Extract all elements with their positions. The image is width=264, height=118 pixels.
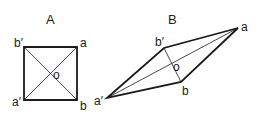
vertex-label-a: a [80, 36, 87, 50]
figure-a-title: A [46, 12, 55, 27]
center-label-o: o [173, 60, 180, 74]
figure-a: A b′ a b a′ o [12, 12, 87, 113]
figure-b: B b′ a b a′ o [94, 12, 248, 108]
vertex-label-a: a [241, 20, 248, 34]
vertex-label-b-prime: b′ [155, 35, 165, 49]
vertex-label-b: b [80, 99, 87, 113]
figure-b-title: B [168, 12, 177, 27]
vertex-label-a-prime: a′ [94, 94, 104, 108]
center-label-o: o [53, 68, 60, 82]
vertex-label-b-prime: b′ [14, 36, 24, 50]
diagram-canvas: A b′ a b a′ o B b′ a b a′ o [0, 0, 264, 118]
vertex-label-a-prime: a′ [12, 95, 22, 109]
vertex-label-b: b [182, 84, 189, 98]
